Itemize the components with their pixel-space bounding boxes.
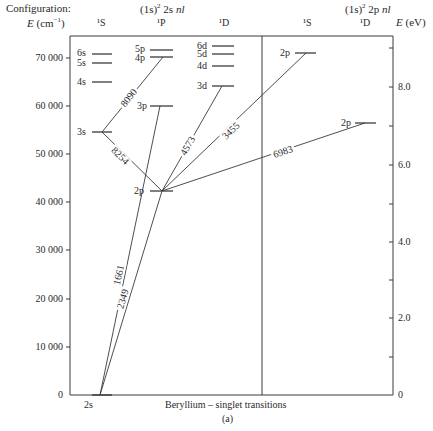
level-4s: 4s [77, 77, 86, 87]
column-2p-1D: ¹D [360, 18, 370, 28]
level-2p: 2p [134, 186, 144, 196]
column-1D: ¹D [219, 18, 229, 28]
label-2349: 2349 [114, 288, 130, 310]
transition-2349 [100, 191, 162, 395]
transition-6983 [162, 123, 365, 191]
level-3p: 3p [137, 101, 147, 111]
label-6983: 6983 [272, 143, 294, 160]
left-axis-label: E (cm−1) [27, 17, 65, 29]
right-axis-label: E (eV) [396, 17, 426, 28]
right-tick-4: 4.0 [398, 237, 411, 247]
right-tick-8: 8.0 [398, 82, 411, 92]
group1-config: (1s)2 2s nl [140, 3, 184, 15]
left-tick-0: 0 [58, 390, 63, 400]
configuration-label: Configuration: [6, 3, 71, 14]
left-tick-50000: 50 000 [36, 149, 64, 159]
left-tick-20000: 20 000 [36, 294, 64, 304]
level-2p2-1D: 2p [341, 118, 351, 128]
left-tick-60000: 60 000 [36, 101, 64, 111]
column-2p-1S: ¹S [303, 18, 312, 28]
diagram-title: Beryllium – singlet transitions [165, 400, 286, 410]
left-tick-30000: 30 000 [36, 245, 64, 255]
level-2p2-1S: 2p [280, 48, 290, 58]
level-5s: 5s [77, 58, 86, 68]
level-3d: 3d [197, 81, 207, 91]
level-4d: 4d [197, 61, 207, 71]
level-3s: 3s [77, 127, 86, 137]
column-1P: ¹P [157, 18, 166, 28]
left-tick-70000: 70 000 [36, 53, 64, 63]
level-2s: 2s [84, 400, 93, 410]
level-5d: 5d [197, 49, 207, 59]
level-4p: 4p [135, 53, 145, 63]
right-tick-2: 2.0 [398, 313, 411, 323]
transition-1661 [100, 106, 160, 395]
energy-level-diagram: 8090 8254 1661 2349 4573 3455 6983 [0, 0, 433, 431]
left-tick-40000: 40 000 [36, 197, 64, 207]
left-tick-10000: 10 000 [36, 342, 64, 352]
right-tick-6: 6.0 [398, 160, 411, 170]
column-1S: ¹S [97, 18, 106, 28]
figure-caption: (a) [222, 414, 233, 424]
group2-config: (1s)2 2p nl [345, 3, 391, 15]
label-1661: 1661 [111, 264, 126, 286]
right-tick-0: 0 [398, 390, 403, 400]
